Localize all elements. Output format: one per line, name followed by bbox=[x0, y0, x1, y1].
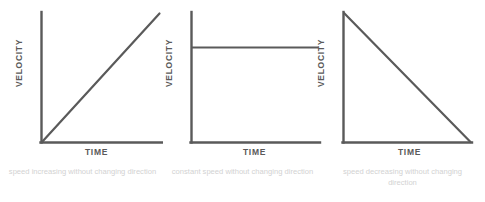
data-line-increasing bbox=[42, 14, 160, 143]
y-axis-label-velocity: VELOCITY bbox=[164, 32, 174, 94]
velocity-time-graphs-figure: VELOCITY TIME speed increasing without c… bbox=[0, 0, 485, 202]
x-axis-label-time: TIME bbox=[322, 147, 483, 157]
chart-panel-decreasing: VELOCITY TIME speed decreasing without c… bbox=[322, 0, 483, 202]
plot-area-decreasing bbox=[322, 0, 483, 160]
plot-area-increasing bbox=[2, 0, 163, 160]
chart-panel-increasing: VELOCITY TIME speed increasing without c… bbox=[2, 0, 163, 202]
y-axis-label-velocity: VELOCITY bbox=[316, 32, 326, 94]
chart-caption-increasing: speed increasing without changing direct… bbox=[2, 167, 163, 178]
x-axis-label-time: TIME bbox=[162, 147, 323, 157]
data-line-decreasing bbox=[344, 13, 471, 142]
chart-caption-decreasing: speed decreasing without changing direct… bbox=[322, 167, 483, 188]
chart-panel-constant: VELOCITY TIME constant speed without cha… bbox=[162, 0, 323, 202]
plot-area-constant bbox=[162, 0, 323, 160]
x-axis-label-time: TIME bbox=[2, 147, 163, 157]
y-axis-label-velocity: VELOCITY bbox=[14, 32, 24, 94]
chart-caption-constant: constant speed without changing directio… bbox=[162, 167, 323, 178]
